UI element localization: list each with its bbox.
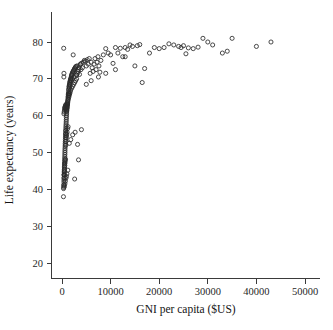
data-point <box>98 70 102 74</box>
data-point <box>69 138 73 142</box>
data-point <box>206 40 210 44</box>
data-point <box>101 53 105 57</box>
data-point <box>76 158 80 162</box>
data-points-group <box>61 36 273 198</box>
data-point <box>133 64 137 68</box>
data-point <box>104 71 108 75</box>
data-point <box>220 51 224 55</box>
data-point <box>118 46 122 50</box>
figure-caption-partial <box>2 320 242 329</box>
data-point <box>225 49 229 53</box>
data-point <box>152 45 156 49</box>
data-point <box>73 177 77 181</box>
data-point <box>61 195 65 199</box>
data-point <box>104 47 108 51</box>
x-tick-label: 50000 <box>292 286 318 297</box>
data-point <box>230 36 234 40</box>
x-tick-label: 40000 <box>243 286 269 297</box>
data-point <box>167 42 171 46</box>
data-point <box>89 79 93 83</box>
data-point <box>211 43 215 47</box>
chart-canvas: 20304050607080 0100002000030000400005000… <box>0 0 333 330</box>
data-point <box>96 75 100 79</box>
data-point <box>147 51 151 55</box>
x-tick-label: 20000 <box>146 286 172 297</box>
y-tick-label: 50 <box>33 147 44 158</box>
data-point <box>116 51 120 55</box>
plot-area: 20304050607080 0100002000030000400005000… <box>33 12 321 297</box>
x-tick-label: 30000 <box>195 286 221 297</box>
data-point <box>254 44 258 48</box>
y-axis-ticks: 20304050607080 <box>33 37 52 269</box>
data-point <box>184 52 188 56</box>
y-tick-label: 30 <box>33 221 44 232</box>
data-point <box>84 82 88 86</box>
data-point <box>62 46 66 50</box>
y-tick-label: 80 <box>33 37 44 48</box>
scatter-plot-figure: 20304050607080 0100002000030000400005000… <box>0 0 333 330</box>
data-point <box>76 142 80 146</box>
x-tick-label: 10000 <box>97 286 123 297</box>
data-point <box>191 47 195 51</box>
data-point <box>172 43 176 47</box>
data-point <box>99 58 103 62</box>
data-point <box>269 40 273 44</box>
y-tick-label: 20 <box>33 258 44 269</box>
data-point <box>97 64 101 68</box>
x-tick-label: 0 <box>59 286 64 297</box>
data-point <box>162 45 166 49</box>
data-point <box>111 61 115 65</box>
data-point <box>143 66 147 70</box>
data-point <box>201 36 205 40</box>
data-point <box>157 47 161 51</box>
y-tick-label: 70 <box>33 73 44 84</box>
data-point <box>186 46 190 50</box>
y-tick-label: 60 <box>33 110 44 121</box>
data-point <box>71 133 75 137</box>
data-point <box>196 45 200 49</box>
data-point <box>113 45 117 49</box>
data-point <box>79 128 83 132</box>
data-point <box>73 130 77 134</box>
x-axis-ticks: 01000020000300004000050000 <box>59 279 318 298</box>
y-axis-title: Life expectancy (years) <box>3 96 16 205</box>
data-point <box>140 80 144 84</box>
data-point <box>113 68 117 72</box>
data-point <box>71 53 75 57</box>
x-axis-title: GNI per capita ($US) <box>136 303 235 316</box>
y-tick-label: 40 <box>33 184 44 195</box>
